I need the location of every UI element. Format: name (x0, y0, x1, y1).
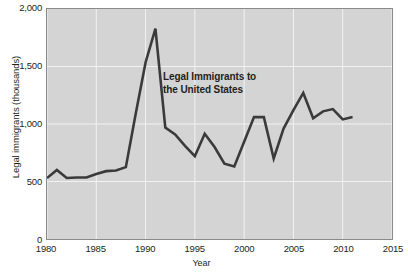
plot-area: Legal Immigrants to the United States (46, 8, 393, 240)
y-tick-label: 1,500 (0, 61, 42, 71)
immigration-series-line (47, 29, 353, 179)
x-axis-title: Year (0, 258, 403, 268)
y-axis-tick-labels: 05001,0001,5002,000 (0, 0, 42, 275)
x-tick-label: 1980 (23, 243, 69, 254)
x-tick-label: 1990 (122, 243, 168, 254)
grid-and-series-layer (47, 9, 392, 239)
series-annotation-label: Legal Immigrants to the United States (163, 71, 256, 96)
x-tick-label: 2005 (271, 243, 317, 254)
x-axis-tick-labels: 19801985199019952000200520102015 (0, 243, 403, 257)
x-tick-label: 2000 (221, 243, 267, 254)
y-tick-label: 1,000 (0, 119, 42, 129)
y-axis-title: Legal immigrants (thousands) (11, 32, 21, 202)
x-tick-label: 1995 (172, 243, 218, 254)
x-tick-label: 1985 (73, 243, 119, 254)
x-tick-label: 2010 (320, 243, 366, 254)
y-tick-label: 2,000 (0, 3, 42, 13)
x-tick-label: 2015 (370, 243, 408, 254)
y-tick-label: 500 (0, 177, 42, 187)
